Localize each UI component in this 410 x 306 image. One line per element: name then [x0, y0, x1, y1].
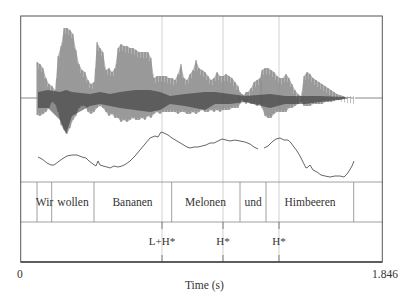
figure-canvas	[0, 0, 410, 306]
pitch-segment	[264, 138, 354, 177]
word-label: Wir	[36, 196, 53, 208]
word-label: Himbeeren	[284, 196, 335, 208]
x-axis-min-label: 0	[17, 268, 23, 280]
x-axis-title: Time (s)	[185, 279, 224, 291]
word-label: wollen	[57, 196, 88, 208]
word-label: und	[244, 196, 261, 208]
annotation-tiers	[21, 182, 383, 262]
x-axis-max-label: 1.846	[372, 268, 398, 280]
tone-label: H*	[272, 235, 285, 247]
word-label: Melonen	[185, 196, 226, 208]
prosody-figure: WirwollenBananenMelonenundHimbeeren L+H*…	[0, 0, 410, 306]
tone-label: L+H*	[149, 235, 175, 247]
pitch-contour	[38, 132, 354, 177]
tone-guide-lines	[162, 16, 279, 262]
word-label: Bananen	[112, 196, 152, 208]
waveform	[21, 28, 383, 134]
pitch-segment	[38, 132, 258, 168]
tone-label: H*	[216, 235, 229, 247]
